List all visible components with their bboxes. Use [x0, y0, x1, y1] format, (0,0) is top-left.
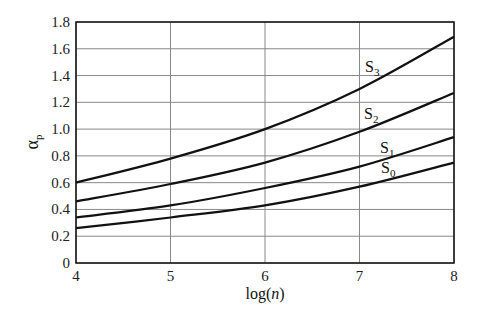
x-tick-label: 4	[72, 268, 80, 284]
y-tick-label: 0	[63, 255, 71, 271]
x-tick-label: 6	[261, 268, 269, 284]
y-axis-label: αp	[22, 134, 44, 149]
x-tick-label: 7	[356, 268, 364, 284]
chart-figure: 00.20.40.60.81.01.21.41.61.8 45678 S3S2S…	[0, 0, 483, 315]
x-tick-label: 5	[167, 268, 175, 284]
y-tick-label: 1.0	[51, 121, 70, 137]
y-tick-label: 1.4	[51, 68, 70, 84]
y-tick-label: 0.6	[51, 175, 70, 191]
y-tick-label: 1.8	[51, 14, 70, 30]
x-tick-label: 8	[450, 268, 458, 284]
y-tick-label: 0.8	[51, 148, 70, 164]
series-label-s2: S2	[364, 105, 378, 125]
y-tick-label: 1.6	[51, 41, 70, 57]
y-tick-label: 0.4	[51, 201, 70, 217]
series-label-s0: S0	[381, 159, 396, 179]
y-axis-ticks: 00.20.40.60.81.01.21.41.61.8	[51, 14, 70, 271]
y-tick-label: 0.2	[51, 228, 70, 244]
x-axis-label: log(n)	[245, 285, 284, 303]
x-axis-ticks: 45678	[72, 268, 458, 284]
grid-lines	[76, 22, 454, 263]
y-tick-label: 1.2	[51, 94, 70, 110]
series-label-s3: S3	[365, 58, 380, 78]
